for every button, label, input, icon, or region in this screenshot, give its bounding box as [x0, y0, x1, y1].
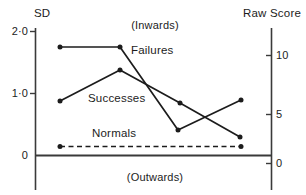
- left-tick-label-0: 0: [22, 150, 28, 161]
- left-axis-title: SD: [34, 8, 50, 20]
- series-line-successes: [60, 70, 240, 137]
- series-markers-successes: [58, 68, 243, 140]
- series-line-failures: [60, 47, 241, 130]
- series-label-normals: Normals: [92, 128, 136, 140]
- right-axis-title: Raw Score: [243, 8, 301, 20]
- outwards-label: (Outwards): [127, 172, 183, 183]
- left-tick-label-1: 1·0: [12, 88, 28, 99]
- right-tick-label-10: 10: [276, 50, 288, 61]
- series-label-failures: Failures: [131, 45, 174, 57]
- right-tick-label-0: 0: [276, 158, 282, 169]
- left-tick-label-2: 2·0: [12, 26, 28, 37]
- chart-figure: SD Raw Score 2·0 1·0 0 10 5 0 (Inwards) …: [0, 0, 306, 195]
- right-tick-label-5: 5: [276, 109, 282, 120]
- inwards-label: (Inwards): [131, 20, 179, 31]
- series-label-successes: Successes: [88, 93, 145, 105]
